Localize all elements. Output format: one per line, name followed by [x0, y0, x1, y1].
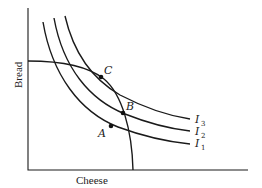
curve-label-i1: I — [194, 137, 200, 150]
y-axis-label: Bread — [12, 61, 24, 88]
point-a-label: A — [97, 127, 106, 140]
point-b-label: B — [125, 100, 134, 113]
x-axis-label: Cheese — [76, 174, 108, 186]
curve-label-i1-subscript: 1 — [201, 144, 205, 152]
point-a-marker — [109, 124, 114, 129]
point-c-marker — [99, 75, 104, 80]
budget-constraint — [28, 61, 133, 170]
curve-label-i2-subscript: 2 — [201, 132, 205, 140]
diagram-canvas: C B A I 3 I 2 I 1 Cheese Bread — [0, 0, 262, 188]
curve-label-i3-subscript: 3 — [201, 120, 205, 128]
point-c-label: C — [104, 64, 113, 77]
point-b-marker — [121, 111, 126, 116]
axes — [28, 8, 248, 170]
indifference-curve-i1 — [43, 22, 190, 144]
